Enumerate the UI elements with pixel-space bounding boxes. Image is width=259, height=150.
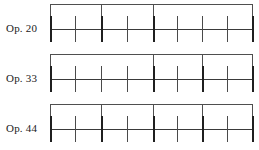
tick-major: [50, 66, 52, 92]
tick-minor: [127, 116, 128, 142]
bracket-span: [50, 54, 153, 55]
tick-major: [153, 116, 155, 142]
tick-minor: [202, 16, 203, 42]
tick-minor: [75, 116, 76, 142]
row-plot: [0, 100, 259, 150]
tick-major: [252, 16, 254, 42]
tick-major: [252, 116, 254, 142]
tick-minor: [177, 66, 178, 92]
bracket-span: [153, 4, 252, 5]
tick-major: [153, 66, 155, 92]
bracket-span: [153, 54, 202, 55]
bracket-span: [153, 104, 202, 105]
tick-major: [50, 116, 52, 142]
tick-minor: [75, 66, 76, 92]
row-plot: [0, 50, 259, 100]
bracket-span: [202, 104, 252, 105]
tick-minor: [127, 66, 128, 92]
timeline-baseline: [50, 129, 252, 130]
tick-major: [50, 16, 52, 42]
tick-major: [252, 66, 254, 92]
tick-minor: [127, 16, 128, 42]
tick-minor: [227, 16, 228, 42]
tick-major: [101, 116, 103, 142]
bracket-span: [50, 4, 101, 5]
tick-major: [202, 116, 204, 142]
timeline-baseline: [50, 29, 252, 30]
tick-minor: [75, 16, 76, 42]
tick-minor: [227, 66, 228, 92]
row-plot: [0, 0, 259, 50]
timeline-baseline: [50, 79, 252, 80]
bracket-span: [50, 104, 101, 105]
tick-minor: [177, 116, 178, 142]
tick-major: [202, 66, 204, 92]
tick-minor: [177, 16, 178, 42]
tick-major: [153, 16, 155, 42]
diagram-row: Op. 20: [0, 0, 259, 50]
diagram-row: Op. 44: [0, 100, 259, 150]
phrase-structure-diagram: Op. 20Op. 33Op. 44: [0, 0, 259, 150]
tick-minor: [101, 66, 102, 92]
bracket-span: [101, 4, 153, 5]
tick-major: [101, 16, 103, 42]
bracket-span: [202, 54, 252, 55]
diagram-row: Op. 33: [0, 50, 259, 100]
tick-minor: [227, 116, 228, 142]
bracket-span: [101, 104, 153, 105]
